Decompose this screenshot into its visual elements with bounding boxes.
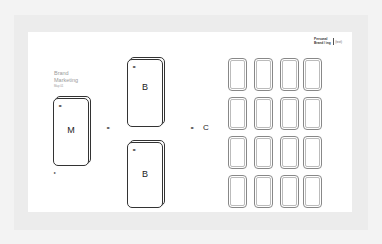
diagram-subtitle: Map 01 bbox=[54, 84, 63, 88]
grid-card bbox=[303, 97, 322, 130]
node-c: C bbox=[203, 123, 209, 132]
grid-card bbox=[303, 58, 322, 91]
grid-card bbox=[228, 58, 247, 91]
brand-tag: Personal Brand / ing (text) bbox=[314, 38, 342, 45]
arrow-b-to-c-icon: ▸▸ bbox=[191, 125, 193, 130]
node-letter: B bbox=[128, 169, 162, 179]
grid-card bbox=[254, 58, 273, 91]
grid-card bbox=[303, 175, 322, 208]
tag-divider bbox=[333, 38, 334, 45]
title-line-2: Marketing bbox=[54, 77, 78, 84]
grid-card bbox=[280, 175, 299, 208]
fast-forward-icon: ▸▸ bbox=[59, 103, 61, 108]
card-front: ▸▸ M bbox=[53, 98, 89, 166]
fast-forward-icon: ▸▸ bbox=[133, 147, 135, 152]
grid-card bbox=[280, 58, 299, 91]
grid-card bbox=[254, 175, 273, 208]
card-front: ▸▸ B bbox=[127, 59, 163, 127]
node-letter: M bbox=[54, 125, 88, 135]
arrow-m-to-b-icon: ▸▸ bbox=[107, 125, 109, 130]
grid-card bbox=[228, 97, 247, 130]
grid-card bbox=[228, 136, 247, 169]
diagram-title: Brand Marketing bbox=[54, 70, 78, 83]
fast-forward-icon: ▸▸ bbox=[133, 64, 135, 69]
node-letter: B bbox=[128, 82, 162, 92]
node-m: ▸▸ M bbox=[53, 96, 91, 166]
card-front: ▸▸ B bbox=[127, 142, 163, 208]
grid-card bbox=[254, 136, 273, 169]
grid-card bbox=[280, 97, 299, 130]
grid-card bbox=[303, 136, 322, 169]
footnote-arrow-icon: ▸ bbox=[54, 170, 55, 175]
grid-card bbox=[228, 175, 247, 208]
grid-card bbox=[254, 97, 273, 130]
tag-sub: (text) bbox=[335, 40, 342, 44]
node-b-top: ▸▸ B bbox=[127, 57, 165, 127]
tag-line-2: Brand / ing bbox=[314, 42, 331, 45]
node-b-bottom: ▸▸ B bbox=[127, 140, 165, 208]
grid-card bbox=[280, 136, 299, 169]
